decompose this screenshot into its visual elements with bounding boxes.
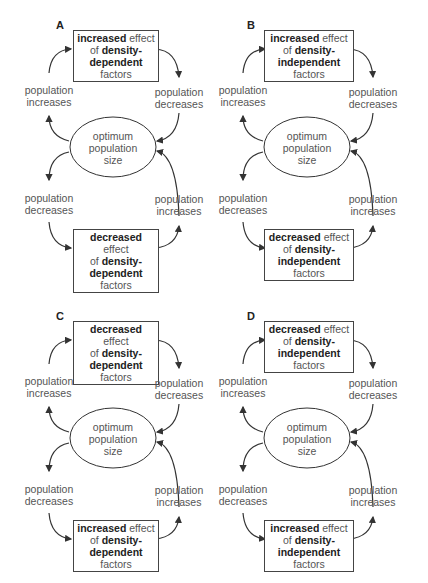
label-line: population [283,433,331,445]
label-line: population [219,84,267,96]
panel-letter: B [247,19,255,31]
of-text: of [90,255,102,267]
of-text: of [283,534,295,546]
effect-strength: decreased [269,323,321,335]
effect-text: effect [321,323,349,335]
label-line: population [219,375,267,387]
lower-right-label: populationincreases [335,193,411,217]
factors-text: factors [293,359,325,371]
label-line: population [349,86,397,98]
label-line: size [104,154,123,166]
of-text: of [283,44,295,56]
factors-text: factors [100,558,132,570]
of-text: of [90,534,102,546]
factor-type: independent [278,347,340,359]
factor-type: dependent [89,56,142,68]
factors-text: factors [293,267,325,279]
top-factor-box: decreased effect of density- independent… [264,321,354,373]
label-line: population [89,433,137,445]
label-line: population [283,142,331,154]
of-text: of [90,347,102,359]
factor-text: density- [102,347,142,359]
label-line: population [155,377,203,389]
label-line: population [155,484,203,496]
effect-strength: increased [77,522,126,534]
label-line: decreases [25,495,73,507]
bottom-factor-box: decreased effect of density- dependent f… [73,229,159,293]
label-line: increases [157,496,202,508]
panel-letter: A [56,19,64,31]
factors-text: factors [293,68,325,80]
effect-strength: increased [270,32,319,44]
effect-strength: increased [270,522,319,534]
optimum-size-ellipse: optimumpopulationsize [267,421,347,457]
panel-a: A increased effect of density- dependent… [0,0,214,291]
of-text: of [90,44,102,56]
label-line: size [104,445,123,457]
top-factor-box: increased effect of density- dependent f… [73,30,159,82]
upper-left-label: populationincreases [11,84,87,108]
label-line: increases [221,387,266,399]
label-line: population [155,193,203,205]
lower-right-label: populationincreases [335,484,411,508]
label-line: population [25,192,73,204]
effect-strength: increased [77,32,126,44]
factor-text: density- [102,255,142,267]
label-line: size [298,154,317,166]
label-line: population [349,193,397,205]
label-line: optimum [93,130,133,142]
optimum-size-ellipse: optimumpopulationsize [73,130,153,166]
label-line: decreases [349,98,397,110]
factor-type: independent [278,546,340,558]
label-line: increases [157,205,202,217]
label-line: increases [27,96,72,108]
label-line: optimum [93,421,133,433]
effect-strength: decreased [269,231,321,243]
bottom-factor-box: decreased effect of density- independent… [264,229,354,281]
label-line: population [219,192,267,204]
lower-left-label: populationdecreases [11,483,87,507]
label-line: population [349,377,397,389]
upper-left-label: populationincreases [205,375,281,399]
top-factor-box: increased effect of density- independent… [264,30,354,82]
label-line: population [89,142,137,154]
optimum-size-ellipse: optimumpopulationsize [267,130,347,166]
upper-left-label: populationincreases [205,84,281,108]
label-line: population [219,483,267,495]
panel-b: B increased effect of density- independe… [214,0,428,291]
factor-type: independent [278,255,340,267]
label-line: decreases [155,389,203,401]
label-line: decreases [219,495,267,507]
lower-left-label: populationdecreases [205,483,281,507]
factor-type: dependent [89,267,142,279]
factor-text: density- [295,534,335,546]
upper-left-label: populationincreases [11,375,87,399]
bottom-factor-box: increased effect of density- independent… [264,520,354,572]
label-line: population [25,84,73,96]
factor-text: density- [295,44,335,56]
label-line: decreases [219,204,267,216]
label-line: increases [221,96,266,108]
label-line: increases [27,387,72,399]
effect-text: effect [103,335,129,347]
factor-type: independent [278,56,340,68]
bottom-factor-box: increased effect of density- dependent f… [73,520,159,572]
effect-text: effect [126,32,154,44]
panel-letter: D [247,310,255,322]
effect-text: effect [319,522,347,534]
factors-text: factors [100,68,132,80]
of-text: of [283,243,295,255]
label-line: optimum [287,421,327,433]
factor-text: density- [102,44,142,56]
label-line: size [298,445,317,457]
factor-text: density- [102,534,142,546]
factor-type: dependent [89,546,142,558]
label-line: decreases [349,389,397,401]
factor-type: dependent [89,359,142,371]
label-line: population [155,86,203,98]
panel-d: D decreased effect of density- independe… [214,291,428,582]
label-line: decreases [155,98,203,110]
panel-letter: C [56,310,64,322]
effect-text: effect [321,231,349,243]
factors-text: factors [293,558,325,570]
